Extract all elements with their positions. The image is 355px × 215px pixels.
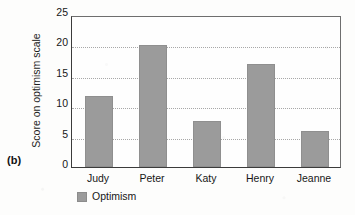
x-tick-label: Katy: [179, 171, 233, 185]
bar: [85, 96, 113, 167]
x-axis-tick-labels: JudyPeterKatyHenryJeanne: [71, 171, 341, 185]
y-tick-label: 15: [46, 68, 68, 78]
y-tick-label: 20: [46, 37, 68, 47]
bar: [301, 131, 329, 167]
x-tick-label: Henry: [233, 171, 287, 185]
bar: [139, 45, 167, 167]
panel-label: (b): [7, 154, 21, 166]
legend-color-swatch: [77, 192, 87, 202]
y-axis-title: Score on optimism scale: [30, 13, 43, 169]
y-tick-label: 0: [46, 159, 68, 169]
x-tick-label: Judy: [71, 171, 125, 185]
legend-item-label: Optimism: [92, 191, 136, 202]
chart-legend: Optimism: [77, 191, 136, 202]
bar-series-optimism: [72, 17, 340, 167]
y-tick-label: 25: [46, 7, 68, 17]
y-tick-label: 5: [46, 129, 68, 139]
bar: [247, 64, 275, 167]
bar: [193, 121, 221, 167]
y-axis-tick-labels: 0510152025: [46, 12, 68, 169]
x-tick-label: Peter: [125, 171, 179, 185]
x-tick-label: Jeanne: [287, 171, 341, 185]
plot-area: [71, 16, 341, 168]
y-tick-label: 10: [46, 98, 68, 108]
